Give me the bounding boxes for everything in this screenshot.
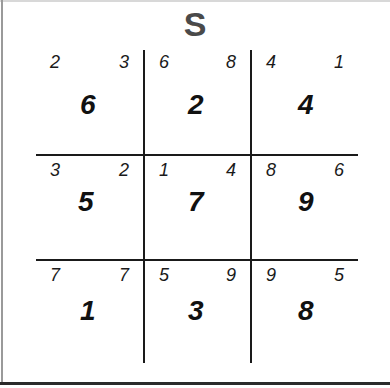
grid-cell[interactable]: 1 4 7 — [145, 156, 250, 259]
frame-bottom-border — [0, 382, 390, 385]
grid-cell[interactable]: 5 9 3 — [145, 261, 250, 363]
cell-value: 5 — [78, 187, 94, 217]
cell-hint-right: 3 — [119, 52, 129, 72]
cell-hint-left: 7 — [50, 265, 60, 285]
cell-hint-right: 9 — [226, 265, 236, 285]
cell-hint-left: 9 — [266, 265, 276, 285]
cell-hint-left: 6 — [159, 52, 169, 72]
frame-top-border — [0, 0, 390, 2]
cell-value: 1 — [80, 296, 96, 326]
cell-hint-left: 4 — [266, 52, 276, 72]
cell-hint-left: 1 — [159, 160, 169, 180]
cell-hint-right: 5 — [334, 265, 344, 285]
frame-left-border — [1, 0, 3, 384]
cell-value: 8 — [298, 296, 314, 326]
cell-value: 4 — [298, 90, 314, 120]
cell-value: 3 — [188, 296, 204, 326]
cell-hint-left: 2 — [50, 52, 60, 72]
grid-cell[interactable]: 6 8 2 — [145, 50, 250, 154]
cell-hint-right: 2 — [119, 160, 129, 180]
cell-hint-right: 6 — [334, 160, 344, 180]
grid-cell[interactable]: 4 1 4 — [252, 50, 358, 154]
cell-hint-left: 3 — [50, 160, 60, 180]
cell-hint-left: 8 — [266, 160, 276, 180]
cell-value: 6 — [80, 90, 96, 120]
cell-value: 2 — [188, 90, 204, 120]
cell-value: 7 — [188, 187, 204, 217]
cell-value: 9 — [298, 187, 314, 217]
grid-cell[interactable]: 7 7 1 — [36, 261, 143, 363]
grid-cell[interactable]: 2 3 6 — [36, 50, 143, 154]
grid-cell[interactable]: 8 6 9 — [252, 156, 358, 259]
grid-cell[interactable]: 3 2 5 — [36, 156, 143, 259]
grid-cell[interactable]: 9 5 8 — [252, 261, 358, 363]
cell-hint-right: 8 — [226, 52, 236, 72]
cell-hint-right: 1 — [334, 52, 344, 72]
cell-hint-right: 4 — [226, 160, 236, 180]
cell-hint-right: 7 — [119, 265, 129, 285]
puzzle-title: S — [0, 4, 390, 44]
cell-hint-left: 5 — [159, 265, 169, 285]
